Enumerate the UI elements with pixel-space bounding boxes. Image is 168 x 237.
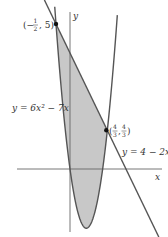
svg-text:(: ( xyxy=(109,126,113,136)
y-axis-label: y xyxy=(72,11,79,21)
shaded-region xyxy=(56,24,107,228)
point-label-left: (− 1 2 , 5) xyxy=(23,17,54,32)
line-curve xyxy=(44,0,158,237)
point-label-right: ( 4 3 , 4 3 ) xyxy=(109,123,131,138)
svg-text:4: 4 xyxy=(122,123,126,130)
line-label: y = 4 − 2x xyxy=(121,147,168,157)
area-between-curves-diagram: y x (− 1 2 , 5) ( 4 3 , 4 3 ) y = 6x² − … xyxy=(0,0,168,237)
svg-text:(−: (− xyxy=(23,20,34,30)
intersection-point-left xyxy=(54,22,58,26)
svg-text:3: 3 xyxy=(122,131,126,138)
parabola-label: y = 6x² − 7x xyxy=(11,103,69,113)
svg-text:3: 3 xyxy=(113,131,117,138)
svg-text:,: , xyxy=(118,126,121,136)
svg-text:1: 1 xyxy=(34,17,38,24)
svg-text:): ) xyxy=(127,126,131,136)
svg-text:4: 4 xyxy=(113,123,117,130)
x-axis-label: x xyxy=(155,172,160,182)
intersection-point-right xyxy=(104,128,108,132)
svg-text:2: 2 xyxy=(34,25,38,32)
svg-text:, 5): , 5) xyxy=(39,20,54,30)
